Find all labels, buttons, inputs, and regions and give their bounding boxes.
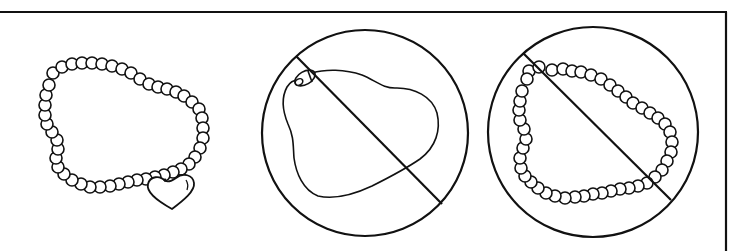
panel-allowed-bead-bracelet <box>39 57 209 209</box>
bead <box>43 79 55 91</box>
illustration-canvas <box>0 0 750 251</box>
bead <box>521 73 533 85</box>
clasp-icon <box>292 67 318 89</box>
bead-strand <box>39 57 209 193</box>
bead <box>516 85 528 97</box>
bead <box>546 64 558 76</box>
panel-prohibited-bead-loop <box>488 27 698 237</box>
bead <box>533 61 545 73</box>
heart-charm-icon <box>148 175 194 209</box>
panel-prohibited-cord-necklace <box>262 30 468 236</box>
frame <box>0 12 727 251</box>
